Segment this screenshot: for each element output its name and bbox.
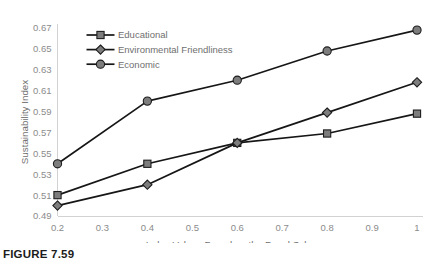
data-point-diamond bbox=[53, 201, 62, 210]
y-tick-label: 0.59 bbox=[33, 106, 52, 117]
data-point-circle bbox=[323, 47, 331, 55]
figure-container: 0.490.510.530.550.570.590.610.630.650.67… bbox=[0, 0, 430, 273]
data-point-square bbox=[144, 160, 151, 167]
data-point-circle bbox=[53, 160, 61, 168]
x-tick-label: 0.4 bbox=[141, 222, 154, 233]
data-point-diamond bbox=[323, 108, 332, 117]
chart-canvas: 0.490.510.530.550.570.590.610.630.650.67… bbox=[0, 0, 430, 243]
figure-caption: FIGURE 7.59 bbox=[3, 248, 74, 260]
series-educational bbox=[54, 110, 421, 199]
x-axis-tick-labels: 0.20.30.40.50.60.70.80.91 bbox=[51, 222, 420, 233]
x-tick-label: 0.3 bbox=[96, 222, 109, 233]
y-tick-label: 0.57 bbox=[33, 127, 52, 138]
data-point-square bbox=[97, 31, 104, 38]
x-tick-label: 1 bbox=[414, 222, 419, 233]
y-tick-label: 0.65 bbox=[33, 43, 52, 54]
y-tick-label: 0.63 bbox=[33, 64, 52, 75]
chart-legend: EducationalEnvironmental FriendlinessEco… bbox=[87, 29, 233, 69]
data-point-square bbox=[54, 192, 61, 199]
legend-label: Environmental Friendliness bbox=[118, 44, 233, 55]
x-tick-label: 0.6 bbox=[231, 222, 244, 233]
x-tick-label: 0.5 bbox=[186, 222, 199, 233]
data-point-diamond bbox=[96, 45, 105, 54]
data-point-square bbox=[324, 130, 331, 137]
x-tick-label: 0.8 bbox=[321, 222, 334, 233]
data-series-group bbox=[53, 26, 422, 210]
y-axis-tick-labels: 0.490.510.530.550.570.590.610.630.650.67 bbox=[33, 22, 52, 221]
line-chart: 0.490.510.530.550.570.590.610.630.650.67… bbox=[0, 0, 430, 243]
series-environmental-friendliness bbox=[53, 78, 422, 210]
axis-lines bbox=[58, 24, 424, 216]
y-tick-label: 0.67 bbox=[33, 22, 52, 33]
legend-label: Economic bbox=[118, 59, 160, 70]
legend-item-educational: Educational bbox=[87, 29, 168, 40]
data-point-circle bbox=[96, 60, 104, 68]
data-point-diamond bbox=[143, 180, 152, 189]
data-point-square bbox=[413, 110, 420, 117]
data-point-circle bbox=[413, 26, 421, 34]
y-tick-label: 0.51 bbox=[33, 190, 52, 201]
x-tick-label: 0.7 bbox=[276, 222, 289, 233]
y-tick-label: 0.55 bbox=[33, 148, 52, 159]
x-tick-label: 0.9 bbox=[365, 222, 378, 233]
data-point-circle bbox=[143, 97, 151, 105]
data-point-circle bbox=[233, 76, 241, 84]
y-tick-label: 0.49 bbox=[33, 210, 52, 221]
legend-label: Educational bbox=[118, 29, 168, 40]
y-tick-label: 0.61 bbox=[33, 85, 52, 96]
y-axis-title: Sustainability Index bbox=[19, 80, 30, 165]
x-tick-label: 0.2 bbox=[51, 222, 64, 233]
legend-item-economic: Economic bbox=[87, 59, 160, 70]
y-tick-label: 0.53 bbox=[33, 169, 52, 180]
data-point-diamond bbox=[412, 78, 421, 87]
legend-item-environmental-friendliness: Environmental Friendliness bbox=[87, 44, 233, 55]
x-axis-title: Index Values Based on the Panel Scheme bbox=[146, 239, 329, 243]
